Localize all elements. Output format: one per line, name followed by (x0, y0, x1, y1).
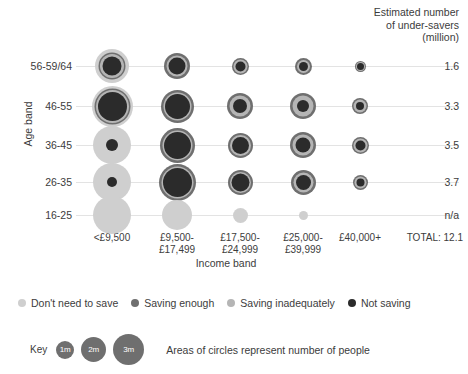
bubble-ring (235, 61, 245, 71)
bubble-cell[interactable] (164, 53, 190, 79)
bubble-cell[interactable] (290, 132, 316, 158)
category-legend: Don't need to saveSaving enoughSaving in… (18, 297, 458, 309)
bubble-cell[interactable] (232, 58, 249, 75)
bubble-ring (297, 100, 309, 112)
bubble-cell[interactable] (227, 93, 253, 119)
key-bubble-group: 1m2m3m (56, 334, 151, 365)
y-axis-title: Age band (22, 84, 34, 164)
bubble-ring (231, 173, 249, 191)
bubble-ring (169, 58, 186, 75)
legend-item-label: Don't need to save (31, 297, 118, 309)
x-axis-tick-label: £9,500-£17,499 (141, 232, 213, 256)
row-value: 3.3 (399, 100, 459, 112)
bubble-cell[interactable] (295, 58, 312, 75)
bubble-ring (355, 140, 365, 150)
y-axis-tick-label: 26-35 (6, 176, 72, 188)
bubble-cell[interactable] (161, 90, 194, 123)
y-axis-tick-label: 56-59/64 (6, 60, 72, 72)
bubble-cell[interactable] (160, 128, 195, 163)
bubble-ring (356, 102, 364, 110)
bubble-cell[interactable] (162, 200, 192, 230)
bubble-ring (299, 62, 308, 71)
bubble-cell[interactable] (352, 137, 369, 154)
legend-item-label: Saving inadequately (240, 297, 335, 309)
bubble-ring (296, 138, 311, 153)
bubble-cell[interactable] (352, 98, 368, 114)
x-axis-tick-label: £17,500-£24,999 (204, 232, 276, 256)
row-value: 3.5 (399, 139, 459, 151)
bubble-ring (233, 99, 247, 113)
bubble-ring (164, 132, 191, 159)
bubble-cell[interactable] (353, 175, 368, 190)
legend-swatch-icon (18, 299, 26, 307)
bubble-ring (98, 92, 127, 121)
legend-swatch-icon (348, 299, 356, 307)
bubble-ring (107, 177, 117, 187)
size-key: Key 1m2m3m Areas of circles represent nu… (30, 334, 370, 365)
bubble-ring (162, 200, 192, 230)
key-label: Key (30, 344, 47, 355)
legend-item-label: Saving enough (144, 297, 214, 309)
legend-item[interactable]: Saving inadequately (227, 297, 335, 309)
bubble-cell[interactable] (92, 86, 133, 127)
bubble-cell[interactable] (291, 170, 316, 195)
bubble-cell[interactable] (228, 133, 253, 158)
y-axis-tick-label: 36-45 (6, 139, 72, 151)
bubble-cell[interactable] (290, 93, 316, 119)
bubble-ring (233, 208, 248, 223)
legend-item[interactable]: Saving enough (131, 297, 214, 309)
row-value: 1.6 (399, 60, 459, 72)
legend-item-label: Not saving (361, 297, 411, 309)
bubble-cell[interactable] (93, 196, 131, 234)
legend-swatch-icon (131, 299, 139, 307)
bubble-chart: Estimated number of under-savers (millio… (0, 0, 468, 374)
legend-item[interactable]: Not saving (348, 297, 411, 309)
bubble-ring (93, 196, 131, 234)
bubble-ring (165, 94, 190, 119)
plot-area: 56-59/641.646-553.336-453.526-353.716-25… (0, 0, 468, 374)
bubble-cell[interactable] (159, 164, 196, 201)
bubble-cell[interactable] (228, 170, 253, 195)
legend-swatch-icon (227, 299, 235, 307)
bubble-cell[interactable] (233, 208, 248, 223)
bubble-ring (356, 178, 364, 186)
bubble-cell[interactable] (95, 49, 129, 83)
bubble-ring (232, 137, 249, 154)
bubble-ring (163, 168, 192, 197)
legend-item[interactable]: Don't need to save (18, 297, 118, 309)
bubble-ring (106, 139, 118, 151)
bubble-cell[interactable] (93, 126, 131, 164)
bubble-ring (296, 175, 311, 190)
key-bubble: 1m (56, 341, 74, 359)
key-bubble: 3m (113, 334, 144, 365)
bubble-cell[interactable] (299, 211, 308, 220)
row-value: 3.7 (399, 176, 459, 188)
row-value: n/a (399, 209, 459, 221)
bubble-ring (357, 63, 364, 70)
y-axis-tick-label: 46-55 (6, 100, 72, 112)
key-note: Areas of circles represent number of peo… (166, 344, 370, 356)
key-bubble: 2m (81, 337, 106, 362)
bubble-cell[interactable] (355, 61, 366, 72)
total-label: TOTAL: 12.1 (377, 232, 463, 243)
bubble-ring (299, 211, 308, 220)
x-axis-title: Income band (76, 257, 376, 269)
y-axis-tick-label: 16-25 (6, 209, 72, 221)
bubble-ring (103, 57, 122, 76)
